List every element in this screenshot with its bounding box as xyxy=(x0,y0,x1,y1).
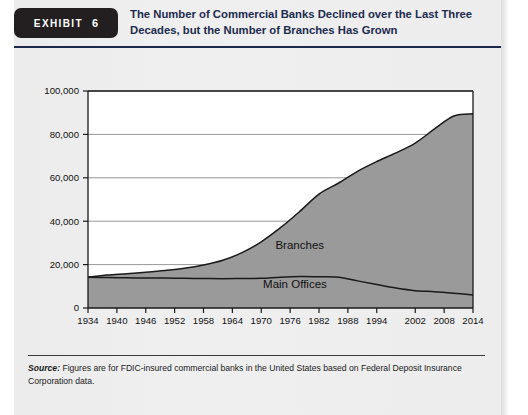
x-tick-label: 2008 xyxy=(433,315,454,326)
source-note: Source: Figures are for FDIC-insured com… xyxy=(28,362,478,387)
y-tick-label: 0 xyxy=(74,302,79,313)
exhibit-badge: EXHIBIT 6 xyxy=(14,8,118,38)
y-tick-label: 80,000 xyxy=(50,129,79,140)
x-axis-labels: 1934194019461952195819641970197619821988… xyxy=(77,315,484,326)
area-chart: 020,00040,00060,00080,000100,000 1934194… xyxy=(0,78,528,333)
y-tick-label: 40,000 xyxy=(50,216,79,227)
x-tick-label: 1970 xyxy=(251,315,272,326)
x-axis-ticks xyxy=(88,308,473,313)
y-axis-ticks xyxy=(83,91,88,308)
x-tick-label: 1994 xyxy=(366,315,388,326)
x-tick-label: 2002 xyxy=(405,315,426,326)
x-tick-label: 1964 xyxy=(222,315,244,326)
series-label: Main Offices xyxy=(263,278,327,290)
exhibit-badge-number: 6 xyxy=(92,17,98,29)
header-divider xyxy=(14,46,501,48)
y-tick-label: 100,000 xyxy=(44,85,79,96)
source-divider xyxy=(28,355,485,356)
x-tick-label: 1982 xyxy=(308,315,329,326)
x-tick-label: 2014 xyxy=(462,315,484,326)
y-tick-label: 60,000 xyxy=(50,172,79,183)
chart-container: 020,00040,00060,00080,000100,000 1934194… xyxy=(0,78,528,333)
exhibit-title: The Number of Commercial Banks Declined … xyxy=(130,7,475,38)
x-tick-label: 1940 xyxy=(106,315,127,326)
y-axis-labels: 020,00040,00060,00080,000100,000 xyxy=(44,85,79,313)
x-tick-label: 1958 xyxy=(193,315,214,326)
source-label: Source: xyxy=(28,363,60,373)
exhibit-page: EXHIBIT 6 The Number of Commercial Banks… xyxy=(0,0,528,415)
y-tick-label: 20,000 xyxy=(50,259,79,270)
x-tick-label: 1934 xyxy=(77,315,99,326)
series-label: Branches xyxy=(275,239,324,251)
x-tick-label: 1952 xyxy=(164,315,185,326)
exhibit-badge-label: EXHIBIT xyxy=(34,18,83,29)
x-tick-label: 1946 xyxy=(135,315,156,326)
source-text: Figures are for FDIC-insured commercial … xyxy=(28,363,462,386)
x-tick-label: 1988 xyxy=(337,315,358,326)
x-tick-label: 1976 xyxy=(279,315,300,326)
